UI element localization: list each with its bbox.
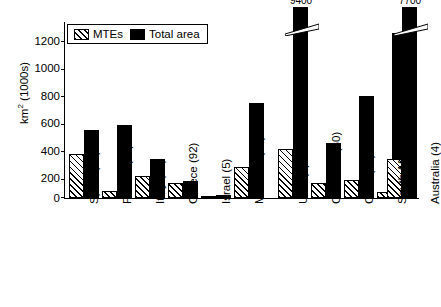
x-tick-label-chile: Chile (19) [363, 154, 375, 204]
bar-mte-california [311, 183, 326, 198]
y-tick-label-600: 600 [26, 118, 60, 129]
bar-mte-spain [69, 154, 84, 198]
y-tick-label-200: 200 [26, 173, 60, 184]
y-tick-label-1200: 1200 [26, 36, 60, 47]
legend-entry-mtes: MTEs [74, 28, 123, 40]
y-tick-mark-0 [61, 197, 65, 198]
x-tick-label-france: France (12) [121, 145, 133, 204]
y-tick-label-1000: 1000 [26, 63, 60, 74]
x-tick-label-israel: Israel (5) [220, 159, 232, 204]
y-tick-mark-800 [61, 96, 65, 97]
bar-mte-greece [168, 183, 183, 198]
y-tick-label-800: 800 [26, 91, 60, 102]
x-tick-label-usa: USA (4) [297, 164, 309, 204]
bar-value-label-australia: 7700 [390, 0, 430, 6]
bar-mte-france [102, 191, 117, 198]
solid-black-swatch-icon [130, 29, 145, 40]
x-tick-label-greece: Greece (92) [187, 143, 199, 204]
bar-mte-morocco [234, 167, 249, 198]
y-tick-label-400: 400 [26, 146, 60, 157]
legend-label-total-area: Total area [149, 28, 200, 40]
x-tick-label-south-africa: South Africa (5) [396, 125, 408, 204]
hatched-swatch-icon [74, 29, 89, 40]
legend-entry-total-area: Total area [130, 28, 200, 40]
x-tick-label-spain: Spain (66) [88, 151, 100, 204]
chart-legend: MTEs Total area [67, 24, 208, 44]
y-tick-mark-200 [61, 179, 65, 180]
x-axis-tick-labels: Spain (66) France (12) Italy (58) Greece… [64, 200, 418, 307]
y-tick-mark-1200 [61, 41, 65, 42]
x-tick-label-california: California (30) [330, 132, 342, 204]
y-tick-mark-1000 [61, 69, 65, 70]
x-tick-label-australia: Australia (4) [429, 142, 441, 204]
bar-mte-israel [201, 196, 216, 198]
y-axis-tick-labels: 1200 1000 800 600 400 200 0 [22, 0, 60, 307]
y-tick-label-0: 0 [26, 193, 60, 204]
legend-label-mtes: MTEs [93, 28, 123, 40]
bar-value-label-usa: 9400 [281, 0, 321, 6]
bar-mte-chile [344, 180, 359, 198]
x-tick-label-italy: Italy (58) [154, 159, 166, 204]
y-tick-mark-400 [61, 151, 65, 152]
axis-break-mark-usa [285, 22, 319, 36]
y-tick-mark-600 [61, 124, 65, 125]
bar-mte-usa [278, 149, 293, 198]
x-tick-label-morocco: Morocco (33) [253, 136, 265, 204]
bar-mte-italy [135, 176, 150, 198]
